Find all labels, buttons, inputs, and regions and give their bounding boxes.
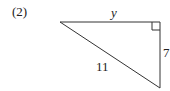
right-triangle-figure: y 7 11 — [0, 0, 170, 91]
side-hypotenuse — [60, 22, 160, 88]
right-angle-marker-icon — [152, 22, 160, 30]
label-hypotenuse: 11 — [96, 59, 109, 74]
label-side-right: 7 — [163, 45, 170, 60]
label-side-top: y — [109, 5, 117, 20]
triangle-edges — [60, 22, 160, 88]
